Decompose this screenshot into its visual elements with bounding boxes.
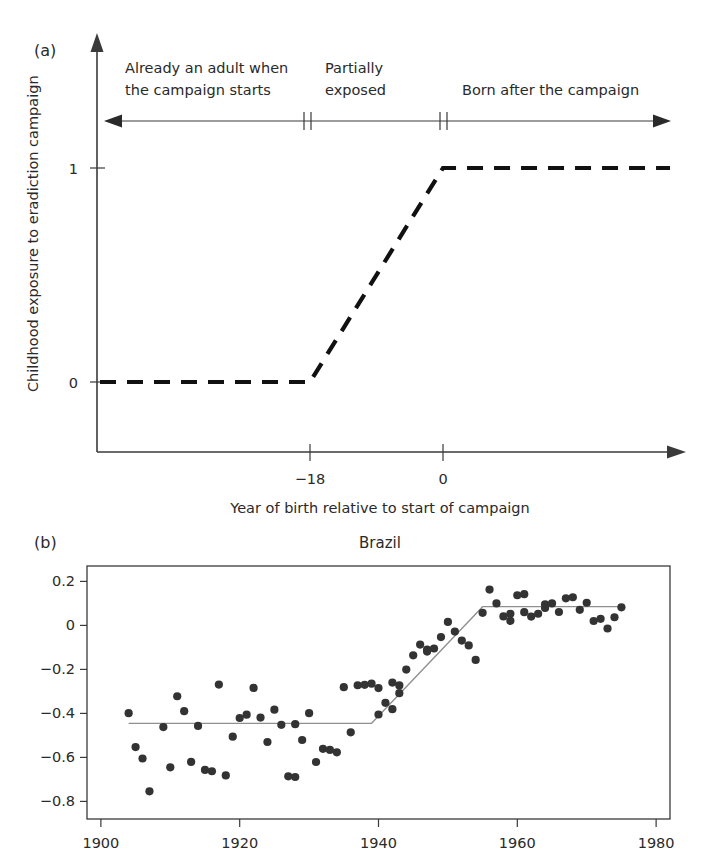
annotation-already-adult-line1: Already an adult when [125,60,288,76]
scatter-point [381,699,389,707]
panel-b: (b) Brazil 0.20−0.2−0.4−0.6−0.8 19001920… [34,533,675,851]
scatter-point [506,617,514,625]
panel-a-xtick-label-minus18: −18 [295,471,326,487]
scatter-point [243,711,251,719]
panel-b-y-ticks: 0.20−0.2−0.4−0.6−0.8 [40,573,87,809]
scatter-point [548,599,556,607]
scatter-point [597,615,605,623]
scatter-point [208,767,216,775]
panel-a-x-axis-arrow [667,446,686,459]
panel-a-y-axis-arrow [91,33,104,52]
panel-b-x-ticks: 19001920194019601980 [82,819,674,851]
figure-root: (a) Childhood exposure to eradiction cam… [0,0,705,856]
scatter-point [131,743,139,751]
panel-b-ytick-label: −0.6 [40,749,75,765]
scatter-point [263,738,271,746]
scatter-point [194,722,202,730]
scatter-point [319,745,327,753]
scatter-point [409,651,417,659]
scatter-point [416,640,424,648]
scatter-point [520,590,528,598]
scatter-point [229,733,237,741]
panel-b-fit-line [129,607,622,724]
scatter-point [215,680,223,688]
panel-b-xtick-label: 1980 [638,835,675,851]
scatter-point [590,617,598,625]
scatter-point [166,763,174,771]
panel-b-ytick-label: −0.4 [40,705,75,721]
scatter-point [125,709,133,717]
scatter-point [465,641,473,649]
annotation-partially-exposed-line1: Partially [325,60,384,76]
panel-a-ytick-label-0: 0 [69,375,78,391]
panel-b-xtick-label: 1940 [360,835,397,851]
scatter-point [374,710,382,718]
scatter-point [569,593,577,601]
scatter-point [430,644,438,652]
scatter-point [458,636,466,644]
scatter-point [312,758,320,766]
scatter-point [340,683,348,691]
scatter-point [347,728,355,736]
panel-b-xtick-label: 1920 [221,835,258,851]
scatter-point [472,656,480,664]
scatter-point [222,771,230,779]
scatter-point [374,684,382,692]
scatter-point [159,723,167,731]
exposure-step-curve [100,168,670,382]
scatter-point [610,613,618,621]
panel-b-label: (b) [34,533,57,552]
scatter-point [402,666,410,674]
annotation-right-arrow-icon [653,115,671,128]
scatter-point [395,681,403,689]
panel-b-xtick-label: 1960 [499,835,536,851]
annotation-partially-exposed-line2: exposed [325,82,386,98]
scatter-point [444,618,452,626]
scatter-point [513,591,521,599]
panel-b-plot-frame [87,566,670,819]
scatter-point [395,689,403,697]
panel-a-xtick-label-zero: 0 [438,471,447,487]
scatter-point [305,709,313,717]
scatter-point [291,773,299,781]
panel-b-ytick-label: 0 [66,617,75,633]
panel-b-xtick-label: 1900 [82,835,119,851]
scatter-point [284,772,292,780]
panel-b-scatter-points [125,585,626,795]
scatter-point [437,633,445,641]
scatter-point [367,680,375,688]
panel-b-title: Brazil [359,534,401,552]
scatter-point [298,736,306,744]
scatter-point [180,707,188,715]
scatter-point [506,610,514,618]
scatter-point [270,706,278,714]
panel-a: (a) Childhood exposure to eradiction cam… [25,33,686,516]
scatter-point [145,787,153,795]
scatter-point [333,748,341,756]
panel-a-ylabel: Childhood exposure to eradiction campaig… [25,75,41,392]
panel-a-xlabel: Year of birth relative to start of campa… [229,500,530,516]
scatter-point [534,610,542,618]
panel-b-fit-polyline [129,607,622,724]
annotation-born-after-campaign: Born after the campaign [462,82,639,98]
annotation-already-adult-line2: the campaign starts [125,82,271,98]
scatter-point [291,720,299,728]
scatter-point [555,608,563,616]
scatter-point [485,585,493,593]
panel-b-ytick-label: −0.2 [40,661,75,677]
panel-b-ytick-label: 0.2 [52,573,75,589]
scatter-point [173,692,181,700]
regime-annotation-bar [104,112,671,130]
scatter-point [541,604,549,612]
scatter-point [451,627,459,635]
scatter-point [187,758,195,766]
scatter-point [256,713,264,721]
scatter-point [603,624,611,632]
scatter-point [479,609,487,617]
scatter-point [277,721,285,729]
panel-b-ytick-label: −0.8 [40,793,75,809]
scatter-point [201,766,209,774]
scatter-point [361,681,369,689]
annotation-left-arrow-icon [104,115,122,128]
scatter-point [138,754,146,762]
